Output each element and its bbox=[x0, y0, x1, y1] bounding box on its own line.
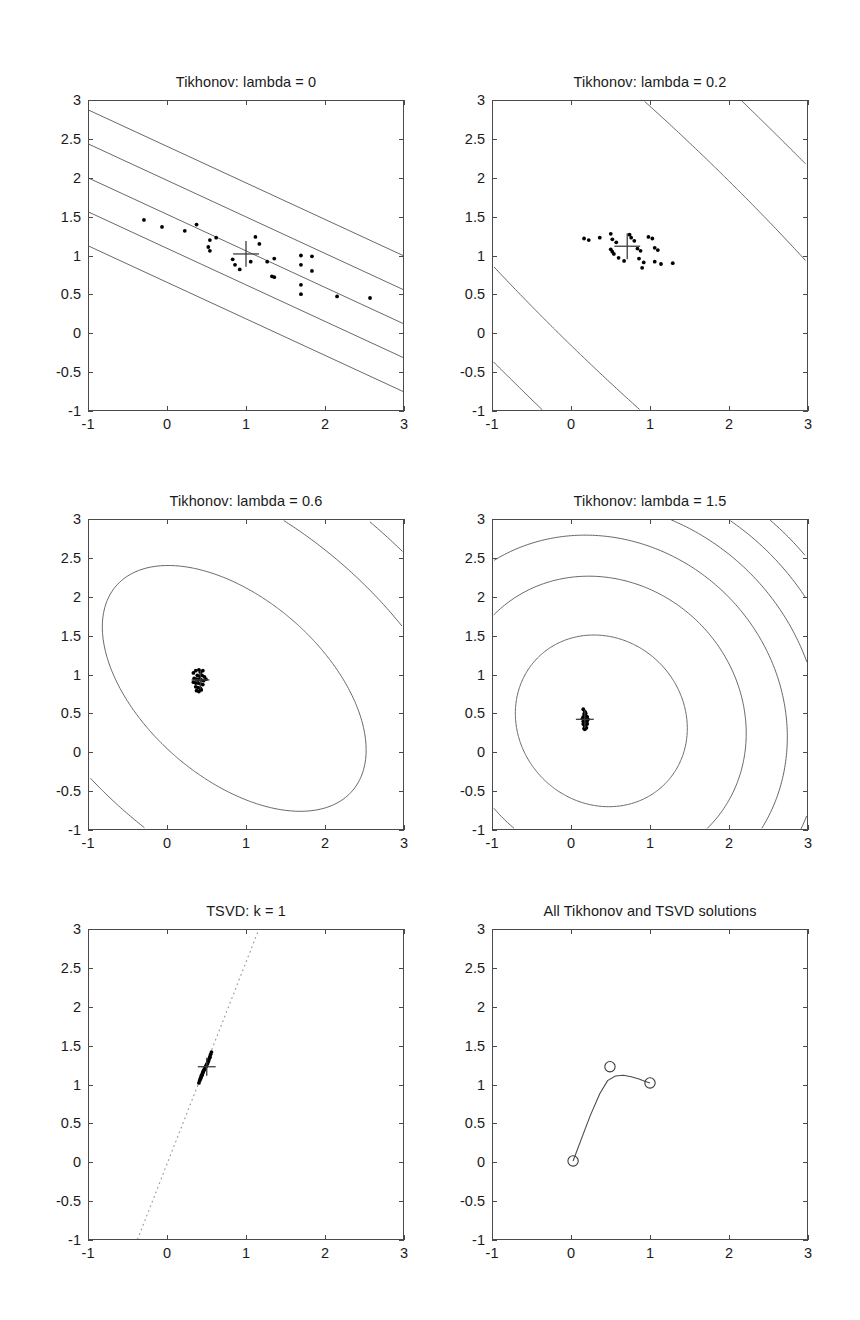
plot-panel-tsvd-k-1: TSVD: k = 1-1-0.500.511.522.53-10123 bbox=[88, 929, 404, 1240]
y-tick-label: 0.5 bbox=[465, 1115, 485, 1131]
y-tickmark-right bbox=[399, 372, 404, 373]
scatter-point bbox=[272, 257, 276, 261]
y-tick-label: 1.5 bbox=[465, 1038, 485, 1054]
x-tickmark bbox=[729, 825, 730, 830]
solution-marker-circle bbox=[568, 1156, 578, 1166]
x-tick-label: 3 bbox=[804, 1245, 812, 1261]
x-tickmark-top bbox=[571, 100, 572, 105]
x-tick-label: -1 bbox=[82, 1245, 95, 1261]
plot-graphics-tikhonov-lambda-02 bbox=[493, 101, 807, 410]
x-tickmark bbox=[492, 406, 493, 411]
x-tick-label: 0 bbox=[163, 835, 171, 851]
x-tickmark-top bbox=[325, 519, 326, 524]
x-tickmark bbox=[404, 825, 405, 830]
x-tick-label: 1 bbox=[242, 416, 250, 432]
panel-title-tsvd-k-1: TSVD: k = 1 bbox=[88, 903, 404, 919]
y-tickmark bbox=[492, 830, 497, 831]
y-tickmark bbox=[88, 558, 93, 559]
scatter-point bbox=[299, 263, 303, 267]
x-tickmark-top bbox=[492, 929, 493, 934]
y-tick-label: 2 bbox=[73, 170, 81, 186]
y-tick-label: 2.5 bbox=[61, 131, 81, 147]
x-tickmark-top bbox=[404, 100, 405, 105]
y-tickmark-right bbox=[399, 178, 404, 179]
y-tickmark-right bbox=[803, 1240, 808, 1241]
y-tick-label: 2.5 bbox=[61, 960, 81, 976]
y-tickmark bbox=[492, 636, 497, 637]
scatter-point bbox=[587, 238, 591, 242]
x-tick-label: 1 bbox=[242, 1245, 250, 1261]
scatter-point bbox=[233, 263, 237, 267]
x-tickmark-top bbox=[808, 929, 809, 934]
y-tickmark-right bbox=[803, 675, 808, 676]
scatter-point bbox=[612, 252, 616, 256]
x-tick-label: -1 bbox=[486, 1245, 499, 1261]
y-tick-label: 0.5 bbox=[61, 1115, 81, 1131]
scatter-point bbox=[617, 256, 621, 260]
x-tickmark bbox=[808, 406, 809, 411]
x-tickmark bbox=[325, 406, 326, 411]
center-plus-marker bbox=[233, 241, 259, 267]
x-tickmark bbox=[650, 406, 651, 411]
y-tick-label: 0 bbox=[477, 1154, 485, 1170]
x-tickmark-top bbox=[729, 929, 730, 934]
y-tickmark bbox=[492, 372, 497, 373]
y-tickmark bbox=[492, 558, 497, 559]
y-tickmark-right bbox=[399, 1085, 404, 1086]
y-tick-label: -0.5 bbox=[56, 1193, 81, 1209]
y-tickmark bbox=[88, 411, 93, 412]
x-tick-label: -1 bbox=[82, 416, 95, 432]
y-tickmark-right bbox=[803, 558, 808, 559]
y-tickmark bbox=[88, 713, 93, 714]
x-tickmark-top bbox=[650, 519, 651, 524]
scatter-point bbox=[238, 268, 242, 272]
y-tick-label: 1 bbox=[73, 248, 81, 264]
plot-area-tikhonov-lambda-0 bbox=[88, 100, 404, 411]
y-tick-label: 0 bbox=[73, 325, 81, 341]
x-tickmark bbox=[404, 1235, 405, 1240]
y-tick-label: -1 bbox=[472, 403, 485, 419]
y-tickmark-right bbox=[399, 294, 404, 295]
x-tick-label: 2 bbox=[321, 416, 329, 432]
y-tickmark-right bbox=[803, 1201, 808, 1202]
contour-line bbox=[102, 566, 366, 812]
y-tickmark-right bbox=[803, 178, 808, 179]
x-tick-label: 2 bbox=[725, 416, 733, 432]
y-tick-label: 3 bbox=[477, 511, 485, 527]
scatter-point bbox=[200, 1073, 204, 1077]
x-tickmark bbox=[246, 406, 247, 411]
scatter-point bbox=[642, 261, 646, 265]
plot-graphics-all-solutions bbox=[493, 930, 807, 1239]
x-tickmark-top bbox=[246, 519, 247, 524]
y-tick-label: 0.5 bbox=[61, 286, 81, 302]
scatter-point bbox=[632, 239, 636, 243]
y-tickmark-right bbox=[803, 256, 808, 257]
x-tick-label: 2 bbox=[321, 1245, 329, 1261]
plot-graphics-tikhonov-lambda-0 bbox=[89, 101, 403, 410]
scatter-point bbox=[272, 275, 276, 279]
scatter-point bbox=[208, 1056, 212, 1060]
y-tickmark-right bbox=[803, 139, 808, 140]
y-tick-label: -1 bbox=[68, 822, 81, 838]
y-tickmark-right bbox=[399, 1007, 404, 1008]
x-tickmark-top bbox=[729, 100, 730, 105]
scatter-point bbox=[610, 237, 614, 241]
scatter-point bbox=[199, 1077, 203, 1081]
y-tick-label: -0.5 bbox=[56, 783, 81, 799]
y-tickmark-right bbox=[399, 256, 404, 257]
x-tickmark-top bbox=[325, 929, 326, 934]
scatter-point bbox=[637, 257, 641, 261]
plot-graphics-tikhonov-lambda-06 bbox=[89, 520, 403, 829]
contour-line bbox=[90, 778, 144, 827]
y-tickmark-right bbox=[399, 558, 404, 559]
scatter-point bbox=[201, 683, 205, 687]
y-tickmark-right bbox=[803, 1007, 808, 1008]
y-tick-label: 2 bbox=[477, 170, 485, 186]
y-tick-label: 0 bbox=[477, 744, 485, 760]
y-tickmark bbox=[492, 139, 497, 140]
panel-title-tikhonov-lambda-06: Tikhonov: lambda = 0.6 bbox=[88, 493, 404, 509]
x-tick-label: 0 bbox=[567, 835, 575, 851]
x-tick-label: 2 bbox=[725, 1245, 733, 1261]
contour-line bbox=[494, 808, 514, 828]
y-tickmark-right bbox=[399, 636, 404, 637]
